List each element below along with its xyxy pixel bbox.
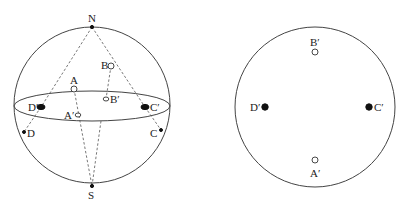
point-B (108, 63, 114, 69)
sphere-figure: N S A A′ B B′ C′ C D′ D (14, 12, 170, 201)
line-S-back (92, 121, 101, 186)
line-A-to-S (74, 89, 92, 186)
point-A-prime (75, 113, 81, 117)
disk-point-D-prime (262, 104, 268, 110)
point-C-prime (141, 104, 149, 109)
label-B-prime: B′ (110, 93, 120, 105)
label-N: N (88, 12, 96, 24)
disk-label-C-prime: C′ (374, 101, 384, 113)
label-C: C (150, 127, 157, 139)
disk-label-D-prime: D′ (250, 101, 260, 113)
disk-point-C-prime (366, 104, 372, 110)
disk-point-B-prime (312, 49, 318, 55)
label-A: A (70, 74, 78, 86)
point-S (90, 184, 93, 187)
line-N-to-D-prime (41, 27, 92, 107)
label-S: S (88, 189, 94, 201)
label-A-prime: A′ (64, 109, 74, 121)
label-C-prime: C′ (150, 101, 160, 113)
disk-point-A-prime (312, 157, 318, 163)
label-B: B (101, 59, 108, 71)
projection-disk-figure: B′ A′ C′ D′ (235, 27, 395, 187)
label-D: D (27, 127, 35, 139)
point-D (23, 131, 26, 134)
point-B-prime (103, 97, 109, 101)
point-A (71, 86, 77, 92)
label-D-prime: D′ (28, 101, 38, 113)
stereographic-projection-diagram: N S A A′ B B′ C′ C D′ D B′ A′ C′ D′ (0, 0, 401, 208)
disk-label-A-prime: A′ (310, 167, 320, 179)
point-C (160, 129, 163, 132)
point-N (90, 25, 93, 28)
disk-label-B-prime: B′ (310, 36, 320, 48)
